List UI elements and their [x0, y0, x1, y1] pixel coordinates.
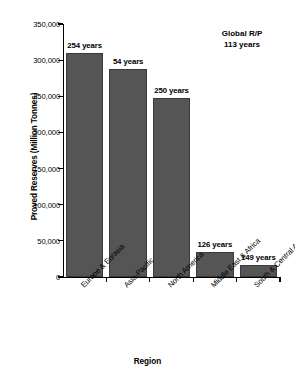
y-axis-tick-label: 150,000 [33, 164, 60, 173]
x-axis-tick [149, 277, 150, 282]
x-axis-tick [106, 277, 107, 282]
x-axis-tick [236, 277, 237, 282]
y-axis-tick-label: 300,000 [33, 56, 60, 65]
y-axis-tick-label: 250,000 [33, 92, 60, 101]
y-axis-tick-label: 100,000 [33, 200, 60, 209]
y-axis-line [63, 24, 64, 277]
x-axis-title: Region [0, 357, 295, 366]
bar [153, 98, 190, 277]
y-axis-title: Proved Reserves (Million Tonnes) [30, 57, 39, 257]
bar-value-label: 254 years [67, 41, 102, 50]
bar-value-label: 54 years [113, 57, 143, 66]
x-axis-tick [193, 277, 194, 282]
plot-area: 050,000100,000150,000200,000250,000300,0… [63, 24, 280, 277]
x-axis-tick [279, 277, 280, 282]
y-axis-tick-label: 200,000 [33, 128, 60, 137]
bar-chart: Proved Reserves (Million Tonnes) Global … [0, 0, 295, 380]
y-axis-tick-label: 50,000 [37, 236, 60, 245]
y-axis-tick-label: 350,000 [33, 20, 60, 29]
y-axis-tick-label: 0 [56, 273, 60, 282]
bar-value-label: 250 years [154, 86, 189, 95]
bar-value-label: 126 years [198, 240, 233, 249]
bar [66, 53, 103, 277]
